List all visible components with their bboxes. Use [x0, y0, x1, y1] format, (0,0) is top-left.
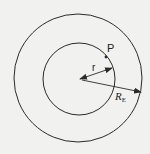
inner-radius-arrow	[80, 68, 112, 79]
inner-radius-label: r	[92, 62, 96, 73]
outer-radius-label: RE	[114, 90, 126, 104]
outer-circle	[14, 14, 142, 142]
concentric-circles-diagram: P r RE	[0, 0, 150, 154]
inner-circle	[43, 43, 115, 115]
outer-radius-arrow	[82, 80, 141, 92]
point-p-label: P	[107, 42, 114, 54]
point-p-marker	[105, 56, 108, 59]
outer-radius-subscript: E	[122, 96, 126, 104]
